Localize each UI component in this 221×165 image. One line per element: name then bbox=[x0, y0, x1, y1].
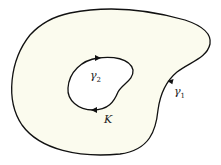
region-diagram bbox=[0, 0, 221, 165]
gamma2-label: γ2 bbox=[90, 70, 101, 84]
region-k-label: K bbox=[104, 114, 112, 125]
gamma2-subscript: 2 bbox=[97, 76, 101, 84]
gamma2-symbol: γ bbox=[90, 69, 97, 82]
gamma1-label: γ1 bbox=[174, 86, 185, 100]
gamma1-subscript: 1 bbox=[181, 92, 185, 100]
gamma1-symbol: γ bbox=[174, 85, 181, 98]
